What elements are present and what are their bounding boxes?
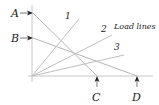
label-line-3: 3 — [114, 42, 120, 52]
diagram-canvas: A B C D 1 2 3 Load lines — [0, 0, 159, 105]
label-line-2: 2 — [100, 24, 107, 34]
load-line-2 — [32, 35, 112, 76]
load-line-3 — [32, 55, 124, 76]
label-b: B — [10, 32, 19, 45]
label-line-1: 1 — [65, 11, 71, 21]
arrow-b-icon — [20, 36, 33, 41]
arrow-d-icon — [135, 76, 140, 87]
label-d: D — [131, 91, 141, 104]
label-a: A — [10, 7, 19, 20]
load-lines-diagram: A B C D 1 2 3 Load lines — [0, 0, 159, 105]
arrow-c-icon — [95, 76, 100, 87]
label-c: C — [92, 91, 101, 104]
line-b-d — [33, 38, 137, 76]
load-line-1 — [32, 19, 79, 76]
arrow-a-icon — [20, 11, 33, 16]
label-load-lines: Load lines — [113, 22, 156, 31]
line-a-c — [33, 13, 97, 76]
